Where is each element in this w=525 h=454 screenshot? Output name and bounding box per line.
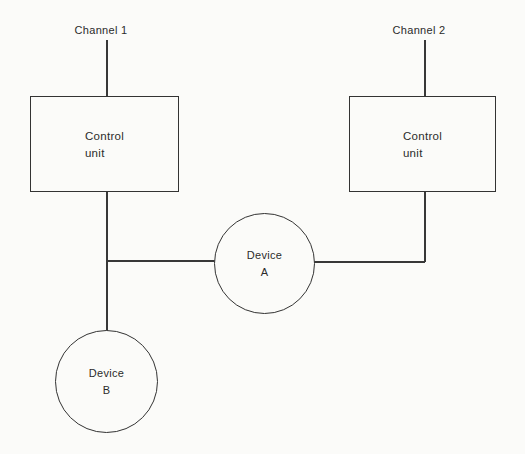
device-a-node: Device A [214,213,315,314]
control-unit-2-label: Control unit [403,128,442,162]
device-b-label-line1: Device [89,365,124,382]
connector-channel2-to-control-unit-2 [424,40,426,97]
diagram-canvas: Channel 1 Channel 2 Control unit Control… [0,0,525,454]
device-b-node: Device B [55,330,158,433]
control-unit-2-label-line1: Control [403,128,442,145]
device-a-label-line2: A [247,264,282,281]
connector-device-a-to-control-unit-2-horizontal [314,261,425,263]
control-unit-1-label-line2: unit [85,145,124,162]
device-a-label: Device A [247,247,282,281]
control-unit-1-label: Control unit [85,128,124,162]
device-b-label-line2: B [89,382,124,399]
control-unit-1-box: Control unit [30,96,179,192]
channel-2-label: Channel 2 [375,24,463,36]
control-unit-1-label-line1: Control [85,128,124,145]
connector-device-a-to-control-unit-2-vertical [424,191,426,262]
device-b-label: Device B [89,365,124,399]
control-unit-2-box: Control unit [349,96,496,192]
connector-channel1-to-control-unit-1 [106,40,108,96]
channel-1-label: Channel 1 [57,24,145,36]
device-a-label-line1: Device [247,247,282,264]
connector-control-unit-1-to-device-a [107,260,216,262]
control-unit-2-label-line2: unit [403,145,442,162]
